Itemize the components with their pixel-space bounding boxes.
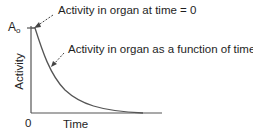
decay-diagram xyxy=(0,0,253,132)
annotation-curve: Activity in organ as a function of time xyxy=(68,43,253,56)
a0-subscript: o xyxy=(16,26,20,35)
decay-curve xyxy=(31,28,143,113)
x-axis-label: Time xyxy=(63,118,88,131)
a0-main: A xyxy=(8,20,16,34)
a0-label: Ao xyxy=(8,21,20,37)
annotation-top: Activity in organ at time = 0 xyxy=(58,4,196,17)
origin-label: 0 xyxy=(25,117,31,130)
arrowhead-icon xyxy=(34,22,41,28)
annotation-arrow-curve xyxy=(54,53,64,64)
y-axis-label: Activity xyxy=(13,50,26,94)
